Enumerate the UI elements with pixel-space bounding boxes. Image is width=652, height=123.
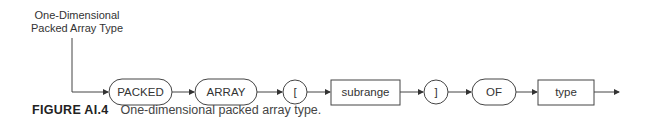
subrange-label: subrange	[331, 84, 400, 100]
caption-text: One-dimensional packed array type.	[120, 103, 321, 117]
figure-number: FIGURE AI.4	[32, 103, 108, 117]
figure-caption: FIGURE AI.4One-dimensional packed array …	[32, 103, 321, 117]
type-label: type	[538, 84, 594, 100]
array-label: ARRAY	[195, 84, 257, 100]
packed-label: PACKED	[109, 84, 172, 100]
entry-arrow	[72, 38, 108, 92]
lbracket-label: [	[283, 84, 307, 100]
rbracket-label: ]	[424, 84, 448, 100]
of-label: OF	[472, 84, 516, 100]
